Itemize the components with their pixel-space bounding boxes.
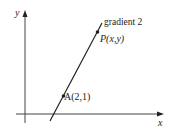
gradient-annotation: gradient 2	[104, 17, 143, 27]
x-axis-arrow-icon	[157, 112, 164, 117]
point-p	[96, 30, 100, 34]
gradient-line	[50, 23, 102, 121]
point-p-label: P(x,y)	[99, 33, 125, 45]
y-axis-label: y	[14, 7, 20, 18]
point-a-label: A(2,1)	[64, 91, 90, 103]
x-axis-label: x	[157, 117, 163, 128]
y-axis-arrow-icon	[23, 10, 28, 17]
coordinate-diagram: y x gradient 2 P(x,y) A(2,1)	[0, 0, 172, 140]
